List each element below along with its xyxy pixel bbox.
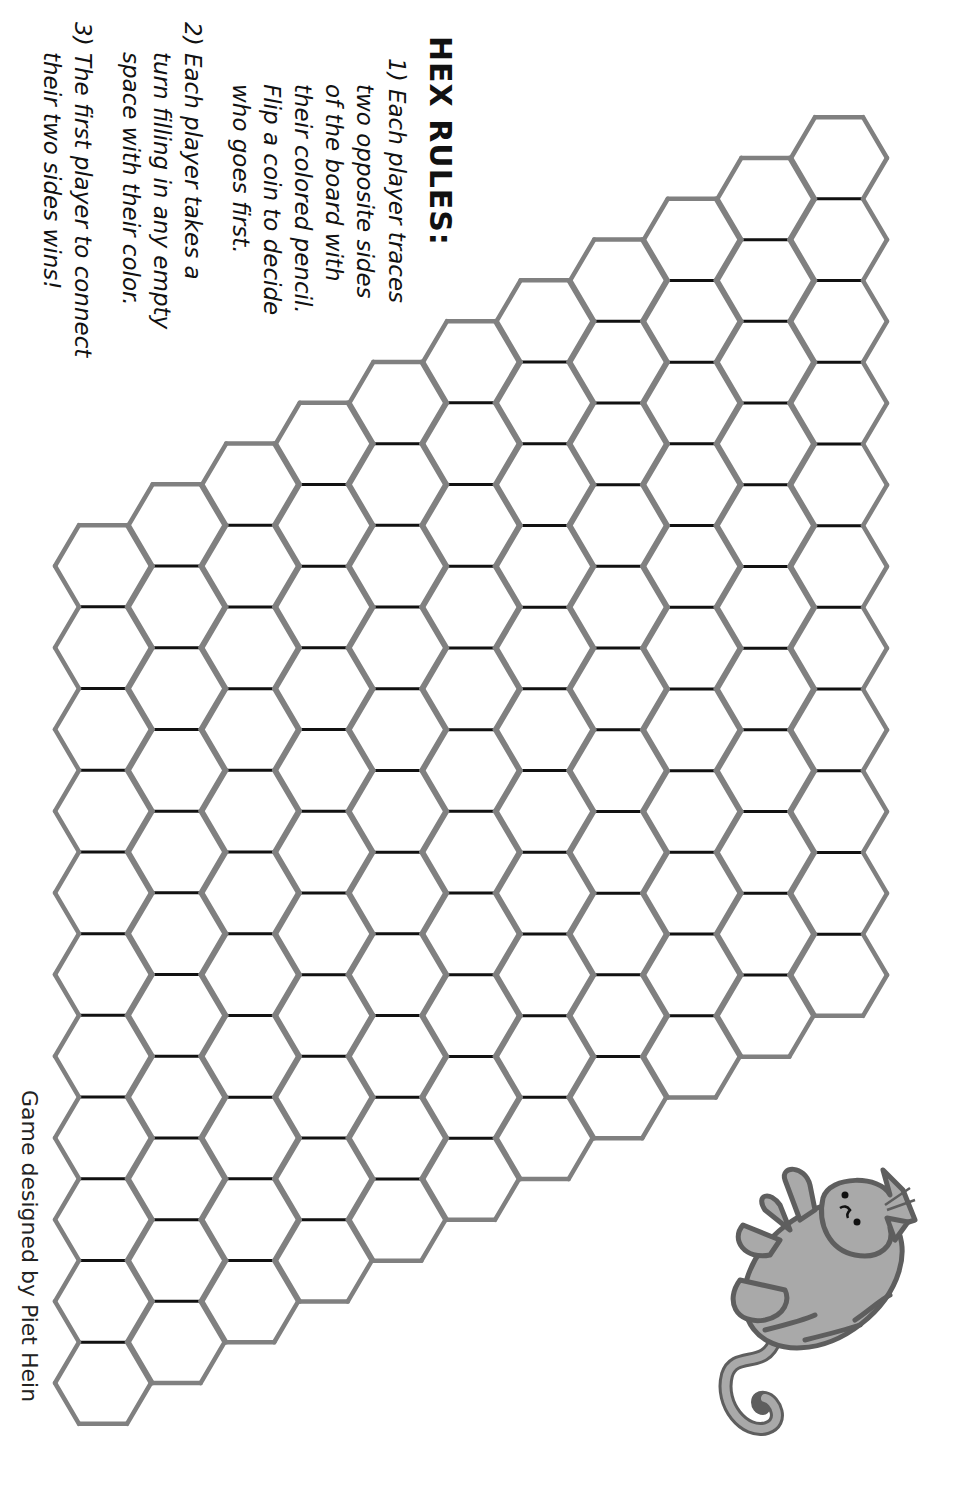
rule-3-line-2: their two sides wins! <box>39 52 65 290</box>
rule-2-line-2: turn filling in any empty <box>149 52 175 329</box>
cat-icon <box>705 1150 935 1440</box>
rule-1-line-4: their colored pencil. <box>290 84 316 314</box>
rule-1-line-3: of the board with <box>321 84 347 281</box>
rule-1-line-6: who goes first. <box>228 84 254 254</box>
rules-title: HEX RULES: <box>423 36 458 246</box>
rule-3-line-1: 3) The first player to connect <box>70 22 96 357</box>
designer-credit: Game designed by Piet Hein <box>17 1090 42 1402</box>
rule-1-line-5: Flip a coin to decide <box>259 84 285 315</box>
rule-1-line-1: 1) Each player traces <box>384 58 410 303</box>
rule-2-line-3: space with their color. <box>118 52 144 306</box>
rule-1-line-2: two opposite sides <box>352 84 378 299</box>
rule-2-line-1: 2) Each player takes a <box>180 22 206 280</box>
